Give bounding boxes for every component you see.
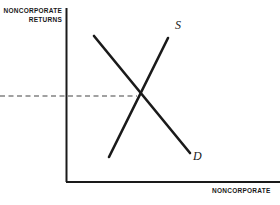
economics-supply-demand-figure: NONCORPORATE RETURNS NONCORPORATE S D	[0, 0, 280, 205]
supply-curve	[109, 38, 168, 157]
y-axis-label: NONCORPORATE RETURNS	[0, 6, 62, 24]
x-axis-label: NONCORPORATE	[212, 186, 271, 195]
y-axis-label-line-2: RETURNS	[0, 15, 62, 24]
demand-curve-label: D	[193, 150, 202, 162]
plot-area	[0, 0, 280, 205]
demand-curve	[94, 36, 190, 153]
y-axis-label-line-1: NONCORPORATE	[0, 6, 62, 15]
supply-curve-label: S	[175, 19, 181, 31]
